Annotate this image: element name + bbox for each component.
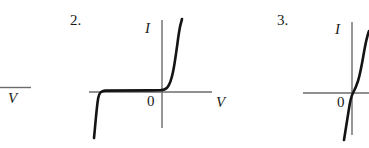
iv-characteristic-diagrams [0,0,369,148]
figure-2-voltage-axis-label: V [216,95,225,110]
figure-2-current-axis-label: I [145,21,150,36]
figure-2-number: 2. [70,13,81,28]
figure-3-curve [344,31,369,140]
figure-1-voltage-axis-label: V [8,91,17,106]
figure-2-origin-label: 0 [147,94,155,109]
figure-2-plot [89,19,212,138]
figure-3-current-axis-label: I [335,22,340,37]
figure-2-curve [94,19,182,138]
figure-sheet: V 2. I 0 V 3. I 0 [0,0,369,148]
figure-3-plot [303,22,369,140]
figure-3-number: 3. [277,13,288,28]
figure-3-origin-label: 0 [337,95,345,110]
